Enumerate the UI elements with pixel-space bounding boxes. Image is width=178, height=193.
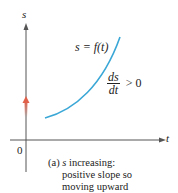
t-axis-label: t (166, 132, 169, 144)
motion-arrow-shaft (25, 101, 28, 117)
derivative-relation: > 0 (126, 76, 142, 90)
motion-arrow-up-icon (23, 96, 30, 103)
origin-label: 0 (17, 144, 23, 156)
curve-label: s = f(t) (75, 40, 108, 55)
caption-line2: positive slope so (48, 169, 132, 181)
derivative-label: ds dt > 0 (107, 71, 141, 96)
caption-line3: moving upward (48, 181, 132, 193)
s-axis-label: s (22, 8, 26, 20)
derivative-denominator: dt (107, 84, 120, 96)
s-axis-arrowhead-icon (24, 23, 29, 30)
caption-line1: increasing: (66, 157, 115, 168)
figure-caption: (a) s increasing: positive slope so movi… (48, 157, 132, 193)
caption-prefix: (a) (48, 157, 62, 168)
t-axis-arrowhead-icon (159, 138, 166, 143)
